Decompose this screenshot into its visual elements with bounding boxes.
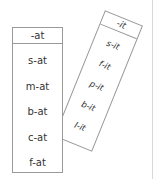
word-item: m-at (13, 74, 62, 100)
word-family-card-it: -it s-it f-it p-it b-it l-it (54, 10, 143, 151)
word-item: s-at (13, 48, 62, 74)
word-item: c-at (13, 125, 62, 151)
word-item: f-at (13, 150, 62, 176)
page-divider (152, 0, 153, 179)
word-family-card-at: -at s-at m-at b-at c-at f-at (12, 27, 63, 173)
card-header: -at (13, 28, 62, 44)
word-item: b-at (13, 99, 62, 125)
